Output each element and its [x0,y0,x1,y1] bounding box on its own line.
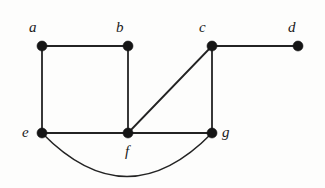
graph-vertex-c[interactable] [207,41,217,51]
graph-vertex-a[interactable] [37,41,47,51]
graph-canvas [0,0,325,188]
vertex-label-d: d [288,20,296,35]
graph-vertex-e[interactable] [37,128,47,138]
graph-vertex-d[interactable] [293,41,303,51]
vertex-label-a: a [29,20,37,35]
vertex-label-b: b [116,20,124,35]
graph-vertex-f[interactable] [123,128,133,138]
vertex-label-e: e [22,125,29,140]
edge-layer [42,46,298,177]
vertex-label-f: f [125,144,129,159]
graph-edge-c-f [128,46,212,133]
graph-vertex-g[interactable] [207,128,217,138]
graph-figure: abcdefg [0,0,325,188]
vertex-label-c: c [199,20,206,35]
vertex-label-g: g [222,125,230,140]
graph-vertex-b[interactable] [123,41,133,51]
